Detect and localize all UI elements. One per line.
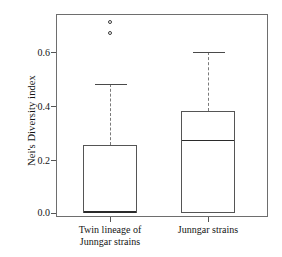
outlier-point-series-1 [108,31,112,35]
median-line-series-2 [182,140,234,141]
y-tick-label-0.0: 0.0 [20,208,50,218]
median-line-series-1 [84,211,136,213]
y-tick-label-0.4: 0.4 [20,102,50,112]
y-tick-label-0.6: 0.6 [20,48,50,58]
outlier-point-series-1 [108,20,112,24]
box-series-2 [181,111,235,213]
x-tick-mark-series-1 [110,217,111,222]
whisker-line-series-2 [208,52,209,111]
box-series-1 [83,145,137,213]
y-axis-tick-labels: 0.6 0.4 0.2 0.0 [16,0,50,257]
boxplot-figure: Nei's Diversity index 0.6 0.4 0.2 0.0 [0,0,282,257]
whisker-cap-series-1 [95,84,127,85]
x-tick-label-series-2: Junngar strains [150,224,266,236]
whisker-line-series-1 [110,84,111,145]
x-tick-mark-series-2 [208,217,209,222]
whisker-cap-series-2 [193,52,225,53]
plot-area [56,14,268,217]
y-tick-label-0.2: 0.2 [20,156,50,166]
